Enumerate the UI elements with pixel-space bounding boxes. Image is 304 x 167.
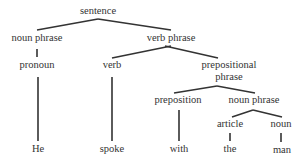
edge-vp-verb <box>112 46 171 58</box>
node-verb: verb <box>103 59 122 70</box>
leaf-with: with <box>170 143 189 154</box>
edge-pp-np2 <box>217 86 255 93</box>
node-noun: noun <box>271 118 293 129</box>
edge-np2-noun <box>253 110 282 117</box>
edge-sentence-vp <box>98 19 171 30</box>
leaf-man: man <box>273 144 292 155</box>
leaf-he: He <box>32 143 45 154</box>
leaf-the: the <box>224 143 237 154</box>
node-noun-phrase: noun phrase <box>11 32 62 43</box>
parse-tree-diagram: sentence noun phrase verb phrase pronoun… <box>0 0 304 167</box>
edge-vp-pp <box>165 46 218 58</box>
node-verb-phrase: verb phrase <box>147 32 196 43</box>
edge-np2-article <box>232 110 253 117</box>
node-article: article <box>217 118 244 129</box>
node-preposition: preposition <box>154 94 202 105</box>
node-sentence: sentence <box>80 5 116 16</box>
node-pronoun: pronoun <box>20 59 56 70</box>
edge-pp-prep <box>174 86 217 93</box>
leaf-spoke: spoke <box>100 143 125 154</box>
node-prepositional-phrase-line2: phrase <box>215 71 243 82</box>
node-noun-phrase-2: noun phrase <box>228 94 279 105</box>
node-prepositional-phrase-line1: prepositional <box>202 59 257 70</box>
edge-sentence-np1 <box>37 19 98 30</box>
